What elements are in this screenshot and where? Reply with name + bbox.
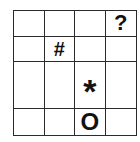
grid-cell-r1-c0	[14, 37, 45, 63]
grid-cell-r2-c0	[14, 62, 45, 109]
grid-cell-r0-c0	[14, 11, 45, 37]
question-mark-icon: ?	[114, 12, 127, 34]
grid-cell-r0-c3: ?	[106, 11, 137, 37]
grid-cell-r1-c1: #	[45, 37, 76, 63]
grid-cell-r3-c1	[45, 109, 76, 135]
circle-o-icon: O	[80, 110, 99, 134]
grid-cell-r3-c2: O	[75, 109, 106, 135]
hash-icon: #	[54, 39, 65, 59]
grid-cell-r2-c1	[45, 62, 76, 109]
grid-cell-r1-c2	[75, 37, 106, 63]
grid-cell-r2-c2: *	[75, 62, 106, 109]
grid-cell-r3-c0	[14, 109, 45, 135]
grid-cell-r2-c3	[106, 62, 137, 109]
grid-cell-r0-c2	[75, 11, 106, 37]
grid-cell-r1-c3	[106, 37, 137, 63]
grid-cell-r0-c1	[45, 11, 76, 37]
asterisk-icon: *	[83, 74, 96, 108]
puzzle-grid: ? # * O	[13, 10, 137, 136]
grid-cell-r3-c3	[106, 109, 137, 135]
